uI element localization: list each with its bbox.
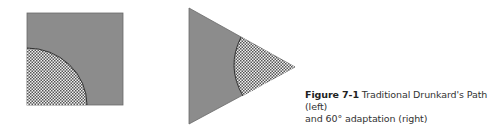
caption-line-2: and 60° adaptation (right) xyxy=(305,113,427,124)
drunkards-path-square xyxy=(27,13,123,105)
figure-label: Figure 7-1 xyxy=(305,89,359,100)
arc-patch xyxy=(234,37,295,96)
sixty-degree-triangle xyxy=(189,8,295,124)
figure-caption: Figure 7-1 Traditional Drunkard's Path (… xyxy=(305,89,504,125)
